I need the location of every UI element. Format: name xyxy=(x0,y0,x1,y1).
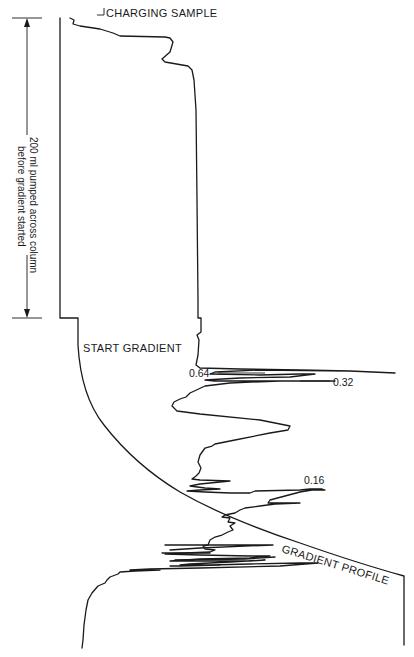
arrow-down-icon xyxy=(24,309,30,318)
svg-text:0.32: 0.32 xyxy=(333,376,354,388)
side-note-line2: before gradient started xyxy=(16,146,27,247)
peak-label-016: 0.16 xyxy=(304,474,325,486)
charging-sample-label: CHARGING SAMPLE xyxy=(97,7,217,19)
absorbance-trace xyxy=(70,18,395,648)
svg-text:0.16: 0.16 xyxy=(304,474,325,486)
side-note-line1: 200 ml pumped across column xyxy=(28,137,39,273)
gradient-profile-line xyxy=(60,18,404,645)
lower-peak-cluster xyxy=(162,545,275,560)
start-gradient-label: START GRADIENT xyxy=(83,342,182,354)
chromatogram-figure: 200 ml pumped across column before gradi… xyxy=(0,0,414,657)
svg-text:0.64: 0.64 xyxy=(189,367,210,379)
svg-text:CHARGING SAMPLE: CHARGING SAMPLE xyxy=(106,7,217,19)
peak-label-032: 0.32 xyxy=(300,376,354,388)
arrow-up-icon xyxy=(24,18,30,27)
volume-marker: 200 ml pumped across column before gradi… xyxy=(12,18,42,318)
